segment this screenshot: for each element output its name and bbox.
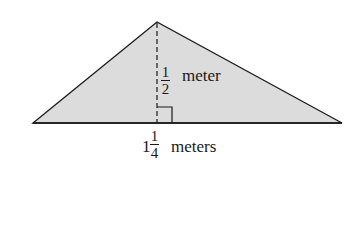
height-numerator: 1 [162, 65, 170, 79]
base-unit: meters [171, 137, 216, 157]
height-fraction: 1 2 [161, 65, 170, 96]
base-denominator: 4 [151, 146, 159, 160]
base-fraction: 1 4 [150, 129, 159, 160]
height-unit: meter [182, 66, 221, 86]
base-numerator: 1 [151, 129, 159, 143]
height-denominator: 2 [162, 82, 170, 96]
